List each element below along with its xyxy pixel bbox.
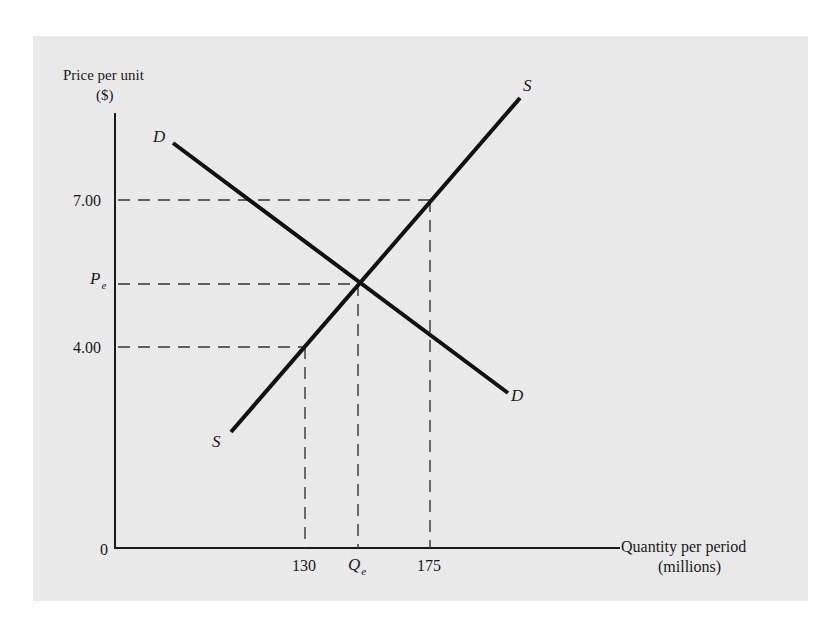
pe-main: P — [90, 269, 100, 288]
y-tick-7: 7.00 — [73, 193, 101, 209]
qe-main: Q — [348, 555, 360, 574]
demand-label-bottom: D — [511, 387, 523, 404]
x-axis-title: Quantity per period — [621, 539, 746, 555]
x-axis-unit: (millions) — [658, 559, 721, 575]
x-tick-130: 130 — [292, 558, 316, 574]
demand-label-top: D — [153, 128, 165, 145]
y-tick-4: 4.00 — [73, 340, 101, 356]
origin-label: 0 — [100, 542, 108, 558]
x-tick-qe: Qe — [348, 556, 366, 573]
x-tick-175: 175 — [417, 558, 441, 574]
supply-demand-chart — [0, 0, 837, 625]
supply-label-top: S — [523, 77, 532, 94]
demand-curve — [173, 143, 508, 393]
pe-sub: e — [101, 279, 106, 291]
supply-label-bottom: S — [212, 433, 221, 450]
y-axis-unit: ($) — [96, 88, 114, 103]
qe-sub: e — [361, 565, 366, 577]
y-tick-pe: Pe — [90, 270, 106, 287]
supply-curve — [231, 98, 520, 432]
y-axis-title: Price per unit — [63, 68, 144, 83]
